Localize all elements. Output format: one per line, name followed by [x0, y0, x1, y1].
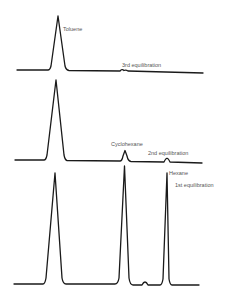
- chromatogram-chart: [0, 0, 228, 302]
- label-3rd-equilibration: 3rd equilibration: [122, 63, 161, 69]
- label-toluene: Toluene: [63, 27, 82, 33]
- trace-1st-equilibration: [14, 166, 199, 285]
- label-1st-equilibration: 1st equilibration: [175, 183, 214, 189]
- trace-3rd-equilibration: [17, 16, 203, 73]
- label-cyclohexane: Cyclohexane: [111, 142, 143, 148]
- label-2nd-equilibration: 2nd equilibration: [148, 151, 188, 157]
- label-hexane: Hexane: [169, 171, 188, 177]
